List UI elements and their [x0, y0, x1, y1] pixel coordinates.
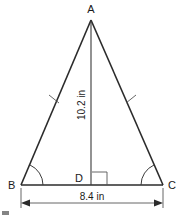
- dimension-arrow-left-icon: [21, 200, 30, 207]
- dimension-arrow-right-icon: [154, 200, 163, 207]
- congruence-tick-ac-icon: [126, 95, 136, 103]
- triangle-diagram: A B C D 10.2 in 8.4 in: [0, 0, 176, 222]
- angle-arc-c-icon: [141, 165, 154, 185]
- base-measurement-label: 8.4 in: [80, 191, 104, 202]
- vertex-label-b: B: [8, 179, 15, 191]
- scan-artifact: [2, 211, 9, 215]
- right-angle-marker-icon: [92, 172, 107, 185]
- angle-arc-b-icon: [30, 165, 43, 185]
- vertex-label-c: C: [168, 179, 176, 191]
- vertex-label-d: D: [75, 172, 83, 184]
- height-measurement-label: 10.2 in: [76, 90, 87, 120]
- vertex-label-a: A: [87, 3, 95, 15]
